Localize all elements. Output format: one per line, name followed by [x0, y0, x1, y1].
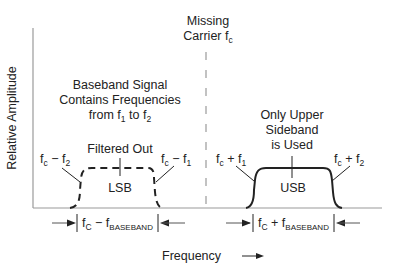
baseband-sub2: 2 [146, 114, 151, 124]
s: 1 [241, 158, 246, 168]
s: 2 [359, 158, 364, 168]
baseband-note: Baseband Signal Contains Frequencies fro… [56, 78, 184, 127]
lsb-label: LSB [100, 181, 140, 196]
lsb-right-edge-label: fc − f1 [161, 152, 191, 171]
t: + f [268, 216, 286, 230]
carrier-label-line2: Carrier fc [178, 29, 238, 48]
lsb-title: Filtered Out [85, 142, 155, 157]
usb-title-line2: Sideband [252, 123, 332, 138]
usb-title-line3: is Used [252, 138, 332, 153]
x-axis-label: Frequency [162, 249, 221, 264]
baseband-line3: from f1 to f2 [56, 108, 184, 127]
s: BASEBAND [109, 223, 153, 232]
baseband-line2: Contains Frequencies [56, 93, 184, 108]
s: BASEBAND [285, 223, 329, 232]
carrier-sub: c [228, 35, 232, 45]
t: + f [224, 152, 242, 166]
baseband-to: to f [126, 108, 147, 122]
frequency-arrowhead-icon [256, 253, 264, 259]
lsb-left-edge-label: fc − f2 [40, 152, 70, 171]
y-axis-label: Relative Amplitude [5, 66, 19, 170]
t: − f [169, 152, 187, 166]
lsb-dim-left-arrowhead [67, 220, 76, 227]
usb-right-edge-label: fc + f2 [334, 152, 364, 171]
s: 2 [65, 158, 70, 168]
usb-dim-left-arrowhead [242, 220, 251, 227]
usb-title-line1: Only Upper [252, 108, 332, 123]
t: − f [92, 216, 110, 230]
usb-title: Only Upper Sideband is Used [252, 108, 332, 153]
lsb-dimension-label: fC − fBASEBAND [82, 216, 153, 235]
carrier-label: Missing Carrier fc [178, 14, 238, 48]
t: + f [342, 152, 360, 166]
baseband-from: from f [89, 108, 121, 122]
baseband-line1: Baseband Signal [56, 78, 184, 93]
t: − f [48, 152, 66, 166]
usb-label: USB [273, 181, 313, 196]
usb-left-edge-label: fc + f1 [216, 152, 246, 171]
s: 1 [186, 158, 191, 168]
carrier-label-line1: Missing [178, 14, 238, 29]
carrier-text: Carrier f [183, 29, 228, 43]
usb-dimension-label: fC + fBASEBAND [258, 216, 329, 235]
